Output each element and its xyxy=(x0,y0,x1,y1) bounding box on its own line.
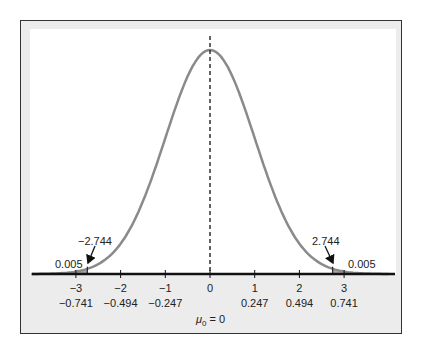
t-tick-label: −1 xyxy=(159,282,172,294)
right-critical-label: 2.744 xyxy=(312,235,340,247)
mean-diff-tick-label: −0.494 xyxy=(104,297,138,309)
mean-diff-tick-label: 0.741 xyxy=(330,297,358,309)
left-critical-arrow xyxy=(88,246,95,263)
t-tick-label: 1 xyxy=(252,282,258,294)
mean-label: μ0= 0 xyxy=(195,313,225,328)
right-tail-area-label: 0.005 xyxy=(348,258,376,270)
left-tail-area-label: 0.005 xyxy=(55,258,83,270)
distribution-plot: −2.744 2.744 0.005 0.005 −3−0.741−2−0.49… xyxy=(0,0,424,356)
mean-diff-tick-label: 0.494 xyxy=(286,297,314,309)
right-critical-arrow xyxy=(325,246,333,263)
t-tick-label: −2 xyxy=(114,282,127,294)
mean-diff-tick-label: 0.247 xyxy=(241,297,269,309)
mean-diff-tick-label: −0.741 xyxy=(59,297,93,309)
tick-labels: −3−0.741−2−0.494−1−0.247010.24720.49430.… xyxy=(59,282,358,309)
mean-diff-tick-label: −0.247 xyxy=(148,297,182,309)
left-critical-label: −2.744 xyxy=(78,235,112,247)
t-tick-label: 0 xyxy=(207,282,213,294)
t-tick-label: 2 xyxy=(296,282,302,294)
t-tick-label: −3 xyxy=(70,282,83,294)
t-tick-label: 3 xyxy=(341,282,347,294)
